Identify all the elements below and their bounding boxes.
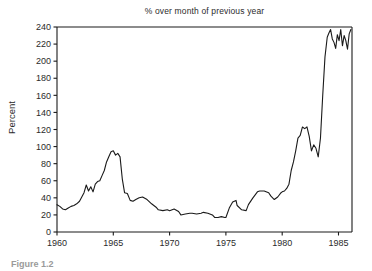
figure-container: % over month of previous year Percent 02… [0,0,372,271]
svg-text:0: 0 [46,227,51,237]
svg-text:160: 160 [36,91,51,101]
svg-text:1980: 1980 [272,238,292,248]
svg-text:20: 20 [41,210,51,220]
svg-text:1985: 1985 [328,238,348,248]
figure-caption: Figure 1.2 [11,259,54,271]
svg-text:60: 60 [41,176,51,186]
svg-text:1965: 1965 [103,238,123,248]
svg-text:180: 180 [36,73,51,83]
svg-text:1970: 1970 [160,238,180,248]
svg-text:200: 200 [36,56,51,66]
svg-text:220: 220 [36,39,51,49]
svg-text:120: 120 [36,125,51,135]
x-axis-ticks: 196019651970197519801985 [47,232,349,248]
line-chart-plot: 020406080100120140160180200220240 196019… [0,0,372,271]
svg-text:80: 80 [41,159,51,169]
svg-text:100: 100 [36,142,51,152]
svg-text:40: 40 [41,193,51,203]
y-axis-ticks: 020406080100120140160180200220240 [36,22,57,237]
svg-text:1975: 1975 [216,238,236,248]
svg-text:1960: 1960 [47,238,67,248]
svg-text:140: 140 [36,108,51,118]
data-series-line [57,30,351,218]
svg-text:240: 240 [36,22,51,32]
